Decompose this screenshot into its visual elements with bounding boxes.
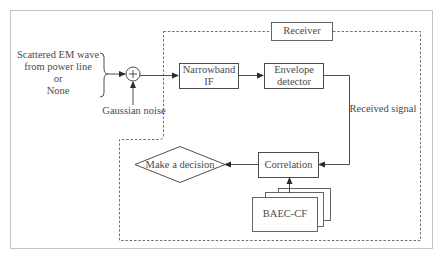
baec-cf-label: BAEC-CF bbox=[253, 208, 317, 220]
envelope-line-2: detector bbox=[265, 76, 323, 88]
narrowband-line-1: Narrowband bbox=[180, 64, 238, 76]
received-signal-label: Received signal bbox=[348, 103, 418, 115]
narrowband-if-label: Narrowband IF bbox=[180, 64, 238, 88]
correlation-label: Correlation bbox=[259, 159, 318, 171]
envelope-line-1: Envelope bbox=[265, 64, 323, 76]
input-line-4: None bbox=[12, 85, 104, 97]
receiver-label: Receiver bbox=[272, 25, 332, 37]
decision-label: Make a decision bbox=[140, 159, 220, 171]
input-line-3: or bbox=[12, 73, 104, 85]
input-line-1: Scattered EM wave bbox=[12, 49, 104, 61]
envelope-detector-label: Envelope detector bbox=[265, 64, 323, 88]
input-label: Scattered EM wave from power line or Non… bbox=[12, 49, 104, 97]
outer-frame bbox=[11, 11, 433, 249]
narrowband-line-2: IF bbox=[180, 76, 238, 88]
gaussian-noise-label: Gaussian noise bbox=[99, 105, 169, 117]
input-line-2: from power line bbox=[12, 61, 104, 73]
diagram-canvas bbox=[0, 0, 441, 258]
